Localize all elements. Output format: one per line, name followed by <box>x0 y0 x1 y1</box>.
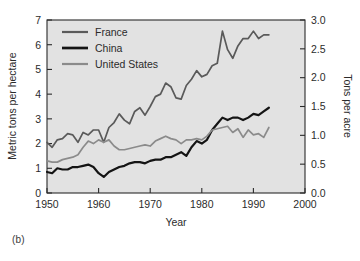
y-tick-label: 2 <box>35 137 41 149</box>
y-tick-label: 6 <box>35 39 41 51</box>
legend-label-united-states: United States <box>95 58 158 70</box>
x-tick-label: 1970 <box>139 198 163 210</box>
y-tick-label: 7 <box>35 14 41 26</box>
x-tick-label: 1980 <box>190 198 214 210</box>
y-tick-label: 3 <box>35 113 41 125</box>
figure-b: 195019601970198019902000 01234567 0.00.5… <box>0 0 360 261</box>
x-tick-label: 1960 <box>87 198 111 210</box>
y-tick-label: 4 <box>35 88 41 100</box>
legend-label-china: China <box>95 42 123 54</box>
y-axis-title: Metric tons per hectare <box>6 52 18 160</box>
y2-tick-label: 2.0 <box>311 71 326 83</box>
figure-caption: (b) <box>12 234 25 245</box>
y2-tick-label: 2.5 <box>311 43 326 55</box>
x-tick-label: 2000 <box>293 198 317 210</box>
x-axis-title: Year <box>165 216 187 228</box>
y2-tick-label: 3.0 <box>311 14 326 26</box>
y-tick-label: 5 <box>35 63 41 75</box>
y2-tick-label: 0.5 <box>311 158 326 170</box>
x-tick-label: 1990 <box>242 198 266 210</box>
y2-tick-label: 1.0 <box>311 129 326 141</box>
plot-area-background <box>47 20 305 193</box>
y2-axis-title: Tons per acre <box>342 74 354 138</box>
legend-label-france: France <box>95 26 128 38</box>
y-tick-label: 1 <box>35 162 41 174</box>
yield-line-chart: 195019601970198019902000 01234567 0.00.5… <box>0 0 360 261</box>
y2-tick-label: 0.0 <box>311 187 326 199</box>
y-tick-label: 0 <box>35 187 41 199</box>
y2-tick-label: 1.5 <box>311 100 326 112</box>
x-tick-label: 1950 <box>35 198 59 210</box>
